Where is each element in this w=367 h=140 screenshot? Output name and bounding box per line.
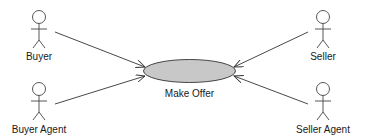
use-case-diagram: Make Offer Buyer Buyer Agent (0, 0, 367, 140)
actor-label: Seller Agent (296, 124, 350, 135)
actor-seller-agent[interactable]: Seller Agent (296, 83, 350, 136)
actor-seller[interactable]: Seller (310, 11, 336, 63)
stick-figure-icon (315, 11, 331, 49)
association-seller (234, 32, 308, 67)
use-case-ellipse (144, 60, 236, 83)
stick-figure-icon (315, 83, 331, 121)
actor-buyer[interactable]: Buyer (26, 11, 53, 63)
association-buyer (55, 32, 145, 67)
association-seller-agent (234, 76, 308, 104)
actor-buyer-agent[interactable]: Buyer Agent (12, 83, 67, 136)
use-case-make-offer[interactable]: Make Offer (144, 60, 236, 100)
stick-figure-icon (31, 11, 47, 49)
use-case-label: Make Offer (165, 88, 215, 99)
actor-label: Buyer (26, 51, 53, 62)
stick-figure-icon (31, 83, 47, 121)
actor-label: Buyer Agent (12, 124, 67, 135)
actor-label: Seller (310, 51, 336, 62)
association-buyer-agent (55, 76, 145, 104)
